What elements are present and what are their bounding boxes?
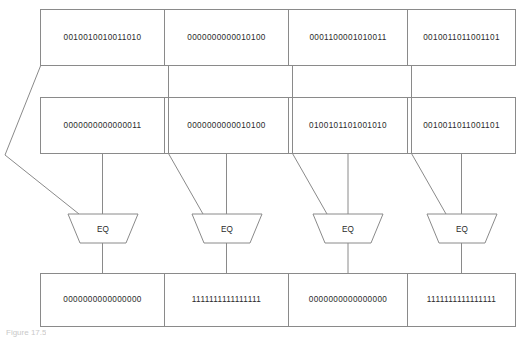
eq-comparator-3[interactable]: EQ [313,214,383,243]
eq-comparator-4-label: EQ [456,225,468,234]
wire-a3-diagonal [293,154,328,215]
eq-comparator-2[interactable]: EQ [192,214,262,243]
cell-a-4-value: 0010011011001101 [423,33,500,42]
cell-r-2-value: 1111111111111111 [192,295,261,304]
comparator-output-wires [103,243,462,274]
figure-caption: Figure 17.5 [6,328,46,338]
eq-comparator-4[interactable]: EQ [427,214,497,243]
cell-b-1-value: 0000000000000011 [64,121,142,130]
eq-comparator-1-label: EQ [97,225,109,234]
cell-r-3-value: 0000000000000000 [309,295,388,304]
eq-comparator-1[interactable]: EQ [68,214,138,243]
wire-a4-diagonal [412,154,447,215]
wire-a2-diagonal [169,154,204,215]
operand-row-b: 0000000000000011 0000000000010100 010010… [41,98,516,154]
figure-canvas: 0010010010011010 0000000000010100 000110… [0,0,528,338]
operand-b-feed-wires [103,154,462,215]
cell-a-2-value: 0000000000010100 [187,33,266,42]
cell-r-1-value: 0000000000000000 [63,295,142,304]
result-row: 0000000000000000 1111111111111111 000000… [41,274,516,327]
cell-b-2-value: 0000000000010100 [187,121,266,130]
cell-b-4-value: 0010011011001101 [423,121,500,130]
cell-b-3-value: 0100101101001010 [309,121,387,130]
cell-a-1-value: 0010010010011010 [64,33,142,42]
operand-row-a: 0010010010011010 0000000000010100 000110… [41,10,516,66]
comparator-diagram: 0010010010011010 0000000000010100 000110… [0,0,528,338]
eq-comparator-2-label: EQ [221,225,233,234]
eq-comparator-3-label: EQ [342,225,354,234]
cell-a-3-value: 0001100001010011 [309,33,386,42]
cell-r-4-value: 1111111111111111 [427,295,496,304]
